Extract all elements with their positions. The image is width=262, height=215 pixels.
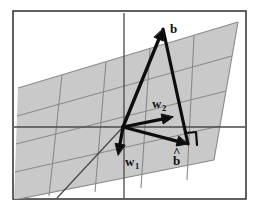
label-w2-subscript: 2 [162,103,166,113]
label-w1-subscript: 1 [135,161,139,171]
label-vector-b: b [170,21,177,36]
label-vector-b-hat: ^ b [173,144,181,168]
figure-canvas: b w 2 w 1 ^ b [0,0,262,215]
label-w2-base: w [152,96,162,111]
label-b-hat-base: b [173,153,180,168]
label-w1-base: w [125,154,135,169]
vector-projection-figure: b w 2 w 1 ^ b [0,0,262,215]
